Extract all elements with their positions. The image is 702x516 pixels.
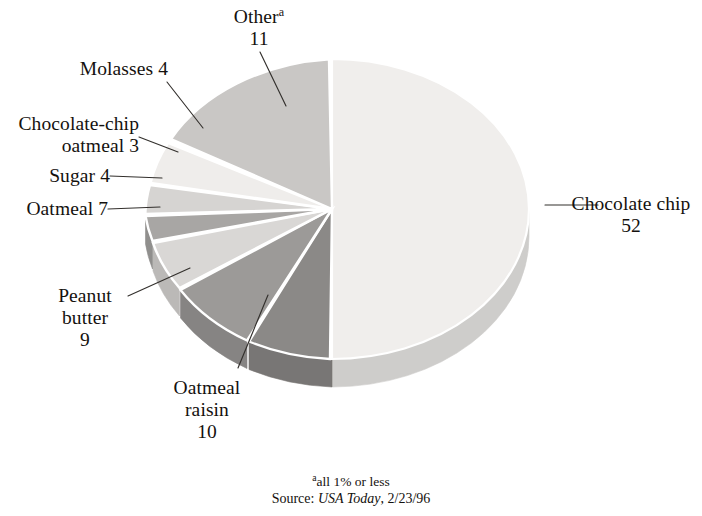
label-oatmeal-raisin-line1: Oatmeal: [152, 377, 262, 399]
label-peanut-butter: Peanut butter 9: [40, 285, 130, 350]
label-molasses: Molasses 4: [0, 58, 168, 80]
label-peanut-butter-line1: Peanut: [40, 285, 130, 307]
label-molasses-text: Molasses 4: [0, 58, 168, 80]
footnote-source-publication: USA Today: [318, 491, 381, 506]
label-oatmeal-raisin-line3: 10: [152, 421, 262, 443]
label-chocolate-chip-line1: Chocolate chip: [558, 193, 702, 215]
label-oatmeal-raisin: Oatmeal raisin 10: [152, 377, 262, 442]
label-sugar: Sugar 4: [0, 165, 110, 187]
label-other-value: 11: [184, 28, 334, 50]
label-chocolate-chip-oatmeal: Chocolate-chip oatmeal 3: [0, 113, 139, 157]
footnote-source: Source: USA Today, 2/23/96: [0, 491, 702, 507]
footnote-source-prefix: Source:: [272, 491, 318, 506]
label-chocolate-chip: Chocolate chip 52: [558, 193, 702, 237]
label-peanut-butter-line2: butter: [40, 307, 130, 329]
footnote-marker-text: all 1% or less: [317, 474, 390, 489]
label-oatmeal-text: Oatmeal 7: [0, 198, 108, 220]
pie-top-face: [145, 59, 529, 359]
pie-chart-figure: Othera 11 Molasses 4 Chocolate-chip oatm…: [0, 0, 702, 516]
label-chocolate-chip-line2: 52: [558, 215, 702, 237]
label-chocolate-chip-oatmeal-line2: oatmeal 3: [0, 135, 139, 157]
label-other-name: Othera: [184, 6, 334, 28]
label-sugar-text: Sugar 4: [0, 165, 110, 187]
label-peanut-butter-line3: 9: [40, 329, 130, 351]
footnote-source-date: , 2/23/96: [381, 491, 431, 506]
label-chocolate-chip-oatmeal-line1: Chocolate-chip: [0, 113, 139, 135]
label-other-footnote-marker: a: [279, 5, 284, 19]
label-other: Othera 11: [184, 6, 334, 50]
footnote-all-one-percent: aall 1% or less: [0, 474, 702, 490]
label-oatmeal-raisin-line2: raisin: [152, 399, 262, 421]
label-oatmeal: Oatmeal 7: [0, 198, 108, 220]
